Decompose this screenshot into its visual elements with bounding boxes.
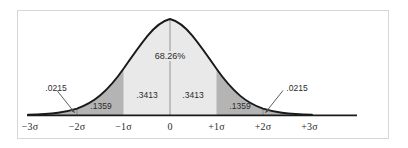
axis-tick-minus-1-sigma: −1σ xyxy=(115,121,131,132)
axis-tick-minus-3-sigma: −3σ xyxy=(22,121,38,132)
area-label-right-2sd: .1359 xyxy=(229,101,250,111)
area-label-left-2sd: .1359 xyxy=(90,101,111,111)
axis-tick-minus-2-sigma: −2σ xyxy=(69,121,85,132)
normal-distribution-figure: 68.26% .3413 .3413 .1359 .1359 .0215 .02… xyxy=(0,0,408,148)
area-label-tail-left: .0215 xyxy=(45,83,66,93)
leader-line-tail-left xyxy=(57,91,75,113)
axis-tick-plus-2-sigma: +2σ xyxy=(255,121,271,132)
leader-line-tail-right xyxy=(266,91,284,113)
axis-tick-plus-3-sigma: +3σ xyxy=(301,121,317,132)
distribution-chart xyxy=(0,0,408,148)
center-area-percent-label: 68.26% xyxy=(154,51,187,61)
area-band-right-1sd xyxy=(170,19,217,115)
area-label-right-1sd: .3413 xyxy=(182,90,203,100)
area-label-left-1sd: .3413 xyxy=(136,90,157,100)
axis-tick-zero: 0 xyxy=(167,121,172,132)
axis-tick-plus-1-sigma: +1σ xyxy=(208,121,224,132)
area-label-tail-right: .0215 xyxy=(286,83,307,93)
area-band-left-1sd xyxy=(124,19,171,115)
